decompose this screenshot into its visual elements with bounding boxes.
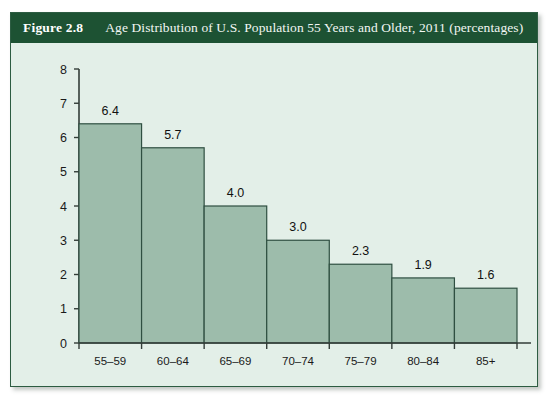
bar-value-label: 6.4 [102,104,119,118]
x-axis-category-label: 65–69 [219,355,251,367]
x-axis-category-label: 70–74 [282,355,315,367]
figure-header: Figure 2.8 Age Distribution of U.S. Popu… [11,13,537,43]
bar [267,240,330,343]
x-axis-group: 55–5960–6465–6970–7475–7980–8485+ [79,343,531,367]
bar [454,288,517,343]
bar-value-label: 2.3 [352,244,369,258]
y-axis-tick-label: 7 [60,97,67,111]
y-axis-ticks: 012345678 [60,63,79,351]
y-axis-tick-label: 1 [60,302,67,316]
bar [142,148,205,343]
figure-root: Figure 2.8 Age Distribution of U.S. Popu… [0,0,555,403]
y-axis-tick-label: 6 [60,131,67,145]
bar-value-label: 3.0 [289,220,306,234]
y-axis-tick-label: 0 [60,337,67,351]
bar-chart-svg: 012345678 55–5960–6465–6970–7475–7980–84… [11,43,537,386]
y-axis-tick-label: 4 [60,200,67,214]
bar-value-label: 1.6 [477,268,494,282]
bar [329,264,392,343]
figure-number: Figure 2.8 [23,20,83,36]
bar-value-label: 4.0 [227,186,244,200]
x-axis-category-label: 75–79 [345,355,377,367]
x-axis-category-label: 80–84 [407,355,440,367]
x-axis-category-label: 60–64 [157,355,190,367]
bar-value-label: 5.7 [164,128,181,142]
chart-plot-area: 012345678 55–5960–6465–6970–7475–7980–84… [11,43,537,386]
bar [79,124,142,343]
figure-caption: Age Distribution of U.S. Population 55 Y… [105,20,523,36]
y-axis-tick-label: 2 [60,268,67,282]
y-axis-tick-label: 3 [60,234,67,248]
chart-canvas: 012345678 55–5960–6465–6970–7475–7980–84… [11,43,537,386]
bar [204,206,267,343]
y-axis-tick-label: 8 [60,63,67,77]
figure-panel: Figure 2.8 Age Distribution of U.S. Popu… [10,12,538,387]
bar [392,278,455,343]
x-axis-category-label: 55–59 [94,355,126,367]
y-axis-tick-label: 5 [60,165,67,179]
bar-value-label: 1.9 [414,258,431,272]
x-axis-category-label: 85+ [476,355,496,367]
